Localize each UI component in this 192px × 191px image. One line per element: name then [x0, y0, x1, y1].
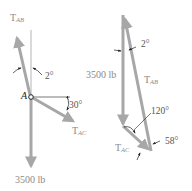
left-load-label: 3500 lb — [15, 175, 45, 185]
left-tab-label: TAB — [10, 13, 24, 24]
right-angle-2-label: 2° — [141, 40, 150, 50]
right-tab-label: TAB — [144, 75, 158, 86]
left-angle-30-label: 30° — [69, 101, 82, 111]
angle-2-arc-left — [13, 68, 21, 73]
free-body-diagram — [0, 0, 192, 191]
left-tac-label: TAC — [72, 126, 86, 137]
right-force-triangle — [114, 15, 160, 160]
right-angle-120-label: 120° — [151, 107, 169, 117]
right-load-label: 3500 lb — [86, 70, 116, 80]
point-a — [29, 95, 34, 100]
point-a-label: A — [21, 91, 27, 101]
angle-58-tick-bottom — [137, 153, 140, 160]
angle-2-tick-left — [114, 50, 121, 51]
right-angle-58-label: 58° — [165, 137, 178, 147]
right-tac-label: TAC — [115, 143, 129, 154]
tab-vector — [17, 38, 30, 95]
left-angle-2-label: 2° — [45, 72, 54, 82]
angle-58-tick — [153, 141, 160, 144]
angle-2-arc-right — [33, 68, 42, 75]
